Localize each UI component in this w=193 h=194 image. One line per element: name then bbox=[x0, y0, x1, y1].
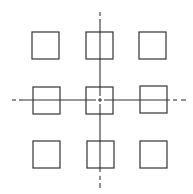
square-r0-c0 bbox=[32, 32, 59, 59]
square-r2-c2 bbox=[140, 141, 167, 168]
square-r0-c2 bbox=[139, 32, 166, 59]
center-lines bbox=[12, 12, 186, 188]
square-r2-c0 bbox=[33, 141, 60, 168]
grid-diagram bbox=[0, 0, 193, 194]
